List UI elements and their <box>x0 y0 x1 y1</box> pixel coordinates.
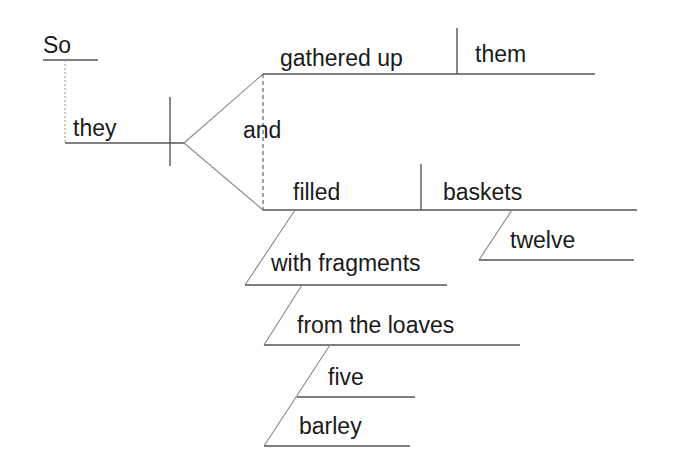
word-filled: filled <box>293 179 340 205</box>
predicate-2: filled baskets <box>263 164 637 210</box>
word-so: So <box>43 32 71 58</box>
node-subject: they <box>65 97 184 166</box>
word-and: and <box>243 117 281 143</box>
word-with-fragments: with fragments <box>270 250 421 276</box>
fork-lower <box>184 143 263 210</box>
compound-predicate-fork: and <box>184 74 281 210</box>
word-them: them <box>475 41 526 67</box>
word-barley: barley <box>299 413 362 439</box>
word-they: they <box>73 115 117 141</box>
word-five: five <box>328 364 364 390</box>
modifier-twelve: twelve <box>479 210 634 260</box>
prep-phrase-with-fragments: with fragments <box>245 210 447 285</box>
word-gathered-up: gathered up <box>280 45 403 71</box>
word-from-the-loaves: from the loaves <box>297 312 454 338</box>
predicate-1: gathered up them <box>263 28 595 74</box>
word-baskets: baskets <box>443 179 522 205</box>
sentence-diagram: So they and gathered up them filled bask… <box>0 0 678 474</box>
modifier-slant-twelve <box>479 210 512 260</box>
prep-phrase-from-the-loaves: from the loaves <box>264 285 520 345</box>
modifiers-loaves: five barley <box>264 345 415 446</box>
word-twelve: twelve <box>510 227 575 253</box>
